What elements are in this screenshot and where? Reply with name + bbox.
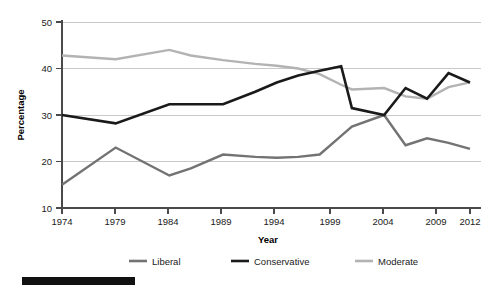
legend-label-moderate: Moderate — [378, 256, 418, 267]
series-line-moderate — [62, 50, 470, 99]
y-tick-label-10: 10 — [41, 203, 52, 214]
y-tick-label-30: 30 — [41, 110, 52, 121]
legend-label-liberal: Liberal — [152, 256, 181, 267]
y-tick-label-20: 20 — [41, 156, 52, 167]
y-axis-title: Percentage — [15, 89, 26, 140]
series-group — [62, 50, 470, 185]
x-tick-label-2004: 2004 — [372, 216, 393, 227]
x-tick-label-1994: 1994 — [263, 216, 284, 227]
y-tick-label-50: 50 — [41, 17, 52, 28]
series-line-liberal — [62, 115, 470, 185]
footer-black-bar — [22, 277, 135, 285]
y-tick-label-40: 40 — [41, 63, 52, 74]
x-tick-label-1979: 1979 — [104, 216, 125, 227]
y-axis: 50 40 30 20 10 Percentage — [15, 17, 62, 214]
x-axis-title: Year — [258, 234, 278, 245]
x-tick-label-1984: 1984 — [157, 216, 178, 227]
legend: Liberal Conservative Moderate — [129, 256, 418, 267]
x-tick-label-2009: 2009 — [425, 216, 446, 227]
line-chart-figure: 50 40 30 20 10 Percentage 1974 1979 1984… — [0, 0, 504, 285]
x-tick-label-1999: 1999 — [319, 216, 340, 227]
x-tick-label-1974: 1974 — [51, 216, 72, 227]
x-tick-label-1989: 1989 — [210, 216, 231, 227]
chart-canvas: 50 40 30 20 10 Percentage 1974 1979 1984… — [0, 0, 504, 285]
x-tick-label-2012: 2012 — [459, 216, 480, 227]
x-axis: 1974 1979 1984 1989 1994 1999 2004 2009 … — [51, 208, 481, 245]
legend-label-conservative: Conservative — [254, 256, 309, 267]
